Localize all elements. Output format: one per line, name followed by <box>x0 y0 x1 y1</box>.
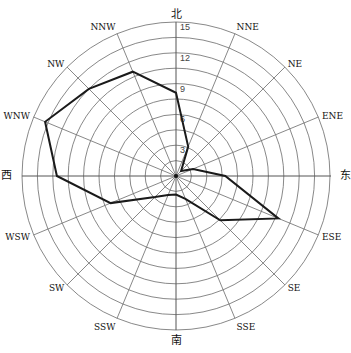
radial-tick-label: 9 <box>180 84 185 94</box>
direction-label-se: SE <box>288 283 301 293</box>
grid-spoke <box>117 34 176 176</box>
direction-label-wnw: WNW <box>4 111 31 121</box>
grid-spoke <box>176 176 235 318</box>
direction-label-sw: SW <box>49 283 65 293</box>
direction-label-nne: NNE <box>237 22 259 32</box>
direction-label-s: 南 <box>171 334 182 347</box>
grid-spoke <box>34 176 176 235</box>
direction-label-ene: ENE <box>322 111 343 121</box>
direction-label-n: 北 <box>171 8 182 21</box>
grid-spokes <box>22 22 331 330</box>
direction-label-nw: NW <box>47 59 65 69</box>
direction-label-wsw: WSW <box>5 232 30 242</box>
radial-tick-label: 12 <box>180 53 190 63</box>
grid-spoke <box>176 176 285 285</box>
direction-label-w: 西 <box>1 169 12 182</box>
radial-tick-label: 15 <box>180 22 190 32</box>
wind-frequency-series <box>45 72 278 221</box>
wind-rose-chart: 3691215 北NNENEENE东ESESESSE南SSWSWWSW西WNWN… <box>0 0 351 353</box>
direction-label-ssw: SSW <box>94 322 116 332</box>
grid-spoke <box>176 67 285 176</box>
direction-label-ese: ESE <box>322 232 341 242</box>
grid-spoke <box>176 117 318 176</box>
direction-label-sse: SSE <box>237 322 256 332</box>
radial-tick-label: 3 <box>180 145 185 155</box>
direction-label-ne: NE <box>288 59 302 69</box>
grid-spoke <box>67 176 176 285</box>
grid-spoke <box>67 67 176 176</box>
center-hub <box>174 174 178 178</box>
direction-label-nnw: NNW <box>90 22 116 32</box>
direction-label-e: 东 <box>340 169 351 182</box>
